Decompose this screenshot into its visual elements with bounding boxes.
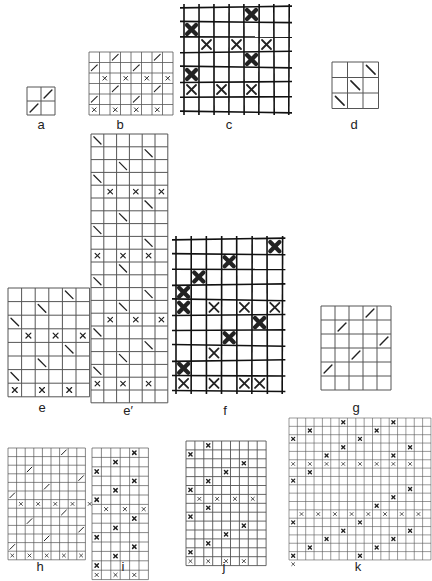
chart-grid-h	[7, 447, 86, 561]
label-f: f	[205, 403, 245, 418]
label-i: i	[103, 559, 143, 574]
label-k: k	[338, 559, 378, 574]
label-c: c	[209, 117, 249, 132]
chart-grid-b	[88, 51, 174, 116]
label-d: d	[334, 117, 374, 132]
chart-grid-e	[7, 287, 91, 398]
label-b: b	[100, 117, 140, 132]
label-h: h	[20, 559, 60, 574]
chart-grid-f	[175, 238, 283, 392]
chart-grid-c	[183, 6, 290, 113]
chart-grid-e-prime	[90, 133, 169, 404]
label-e: e	[22, 400, 62, 415]
chart-grid-j	[185, 440, 267, 567]
chart-grid-k	[288, 417, 432, 561]
label-j: j	[204, 559, 244, 574]
chart-grid-a	[26, 86, 56, 116]
label-g: g	[336, 400, 376, 415]
chart-grid-g	[320, 305, 392, 391]
label-e-prime: e′	[108, 403, 148, 418]
chart-grid-d	[331, 61, 380, 110]
label-a: a	[21, 117, 61, 132]
